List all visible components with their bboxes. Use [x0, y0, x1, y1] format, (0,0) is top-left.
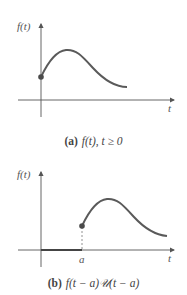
graph-a-curve: [41, 50, 127, 87]
caption-b-tag: (b): [48, 277, 62, 289]
caption-b-text: f(t − a)𝒰(t − a): [66, 277, 139, 289]
caption-a-text: f(t), t ≥ 0: [82, 135, 123, 147]
graph-b-x-label: t: [168, 252, 172, 264]
graph-a-y-label: f(t): [17, 20, 31, 33]
figure-canvas: f(t) t f(t) t a: [0, 0, 187, 295]
graph-b-curve: [82, 199, 167, 236]
graph-b-y-label: f(t): [17, 168, 31, 181]
graph-a-start-point: [38, 74, 44, 80]
caption-a-tag: (a): [64, 135, 77, 147]
graph-b: f(t) t a: [17, 168, 174, 267]
graph-b-start-point: [79, 223, 85, 229]
caption-a: (a)f(t), t ≥ 0: [0, 135, 187, 147]
graph-b-shift-label: a: [79, 253, 85, 265]
graph-a-x-label: t: [168, 102, 172, 114]
graph-a: f(t) t: [17, 20, 174, 117]
caption-b: (b)f(t − a)𝒰(t − a): [0, 277, 187, 290]
